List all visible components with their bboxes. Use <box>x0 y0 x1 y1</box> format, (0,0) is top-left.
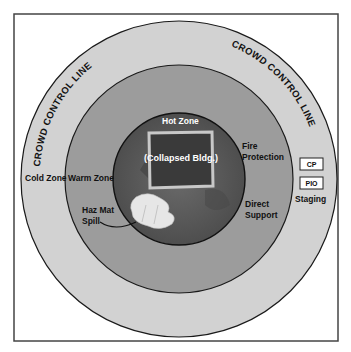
direct-support-label-line2: Support <box>245 210 278 220</box>
collapsed-building-label: (Collapsed Bldg.) <box>144 153 218 163</box>
hazard-zone-diagram: CROWD CONTROL LINE CROWD CONTROL LINE Co… <box>0 0 351 352</box>
cold-zone-label: Cold Zone <box>25 173 67 183</box>
staging-label: Staging <box>295 194 326 204</box>
fire-protection-label-line2: Protection <box>242 152 284 162</box>
warm-zone-label: Warm Zone <box>68 173 114 183</box>
pio-label: PIO <box>305 180 318 187</box>
fire-protection-label-line1: Fire <box>242 141 258 151</box>
haz-mat-label-line2: Spill <box>82 216 100 226</box>
hot-zone-label: Hot Zone <box>162 116 199 126</box>
cp-label: CP <box>307 161 317 168</box>
haz-mat-label-line1: Haz Mat <box>82 205 114 215</box>
direct-support-label-line1: Direct <box>245 199 269 209</box>
